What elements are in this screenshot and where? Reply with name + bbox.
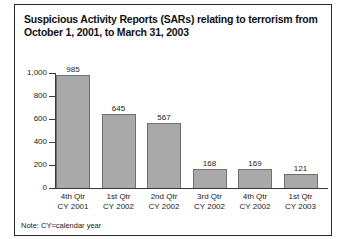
bar-value-label: 168 [185, 159, 235, 168]
y-axis-tick-label: 1,000 [1, 69, 47, 77]
y-axis-tick [49, 188, 55, 189]
y-axis-tick [49, 165, 55, 166]
y-axis-tick [49, 96, 55, 97]
bar [56, 75, 90, 188]
chart-title: Suspicious Activity Reports (SARs) relat… [24, 13, 324, 39]
y-axis-tick [49, 119, 55, 120]
bar-value-label: 645 [94, 104, 144, 113]
chart-title-line-2: October 1, 2001, to March 31, 2003 [24, 26, 324, 39]
bar [238, 169, 272, 188]
x-axis-tick-label-line-1: 1st Qtr [273, 192, 329, 202]
bar [284, 174, 318, 188]
x-axis-tick-label: 1st QtrCY 2003 [273, 192, 329, 212]
y-axis-tick-label: 400 [1, 138, 47, 146]
y-axis-tick [49, 73, 55, 74]
bar-column: 645 [102, 73, 136, 188]
y-axis-tick-label: 0 [1, 184, 47, 192]
chart-footnote: Note: CY=calendar year [21, 221, 101, 230]
x-axis-tick-label-line-2: CY 2003 [273, 202, 329, 212]
bar-column: 169 [238, 73, 272, 188]
x-axis-tick-labels: 4th QtrCY 20011st QtrCY 20022nd QtrCY 20… [56, 192, 328, 218]
chart-page: Suspicious Activity Reports (SARs) relat… [0, 0, 346, 239]
y-axis-tick-label: 800 [1, 92, 47, 100]
bar-value-label: 121 [276, 164, 326, 173]
chart-title-line-1: Suspicious Activity Reports (SARs) relat… [24, 13, 324, 26]
x-axis-line [55, 188, 328, 189]
y-axis-tick [49, 142, 55, 143]
bar-column: 985 [56, 73, 90, 188]
bar-column: 168 [193, 73, 227, 188]
bar-value-label: 985 [48, 65, 98, 74]
y-axis-tick-labels: 02004006008001,000 [0, 0, 47, 239]
bar-series: 985645567168169121 [56, 73, 328, 188]
bar [147, 123, 181, 188]
bar-value-label: 567 [139, 113, 189, 122]
bar [193, 169, 227, 188]
bar-value-label: 169 [230, 159, 280, 168]
bar [102, 114, 136, 188]
y-axis-tick-label: 600 [1, 115, 47, 123]
bar-column: 567 [147, 73, 181, 188]
bar-column: 121 [284, 73, 318, 188]
y-axis-tick-label: 200 [1, 161, 47, 169]
